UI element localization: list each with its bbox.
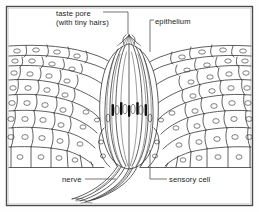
- label-nerve: nerve: [62, 175, 82, 184]
- label-taste-pore: taste pore (with tiny hairs): [56, 9, 109, 28]
- figure-canvas: .s{fill:none;stroke:#2b2b2b;stroke-width…: [0, 0, 259, 212]
- taste-bud-diagram: .s{fill:none;stroke:#2b2b2b;stroke-width…: [0, 0, 259, 212]
- label-epithelium: epithelium: [155, 17, 191, 26]
- label-taste-pore-line2: (with tiny hairs): [56, 18, 109, 27]
- label-sensory-cell: sensory cell: [169, 175, 210, 184]
- label-taste-pore-line1: taste pore: [56, 9, 109, 18]
